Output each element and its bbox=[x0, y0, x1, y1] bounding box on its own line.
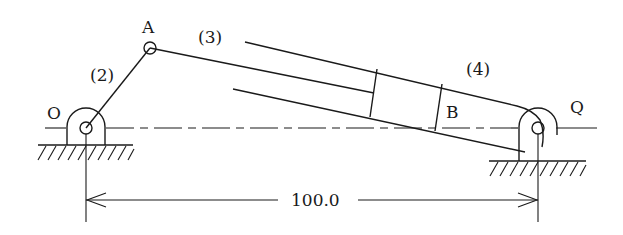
dimension-value: 100.0 bbox=[291, 190, 340, 210]
mechanism-diagram: O A B Q (2) (3) (4) 100.0 bbox=[0, 0, 623, 235]
link-2-crank bbox=[86, 48, 150, 128]
label-link-4: (4) bbox=[466, 59, 490, 79]
label-a: A bbox=[141, 17, 155, 37]
label-link-2: (2) bbox=[90, 65, 114, 85]
label-b: B bbox=[446, 102, 459, 122]
label-o: O bbox=[47, 103, 61, 123]
link-4-cylinder bbox=[233, 42, 543, 152]
label-link-3: (3) bbox=[198, 27, 222, 47]
piston-block-b bbox=[370, 69, 442, 131]
label-q: Q bbox=[570, 97, 584, 117]
link-3-rod bbox=[150, 48, 374, 93]
